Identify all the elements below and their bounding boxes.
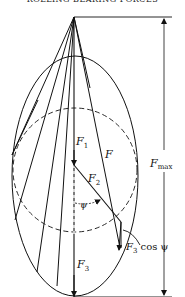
load-ellipse: [12, 56, 138, 296]
psi-label: ψ: [80, 200, 88, 210]
fmax-label: Fmax: [149, 157, 172, 171]
f2-label: F2: [87, 172, 100, 187]
psi-angle-arc: [75, 200, 100, 204]
f2-vector: [74, 165, 121, 222]
f3cos-label: F3 cos ψ: [125, 241, 169, 255]
f-label: F: [104, 148, 113, 161]
dashed-circle: [13, 108, 137, 232]
force-diagram: F1 F F2 ψ F3 Fmax F3 cos ψ: [0, 0, 185, 297]
f3-label: F3: [76, 258, 89, 273]
f1-label: F1: [75, 135, 88, 150]
